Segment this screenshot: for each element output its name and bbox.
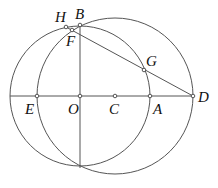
point-E [35, 94, 39, 98]
label-A: A [152, 101, 163, 117]
label-C: C [109, 101, 120, 117]
point-A [148, 94, 152, 98]
label-H: H [54, 9, 67, 25]
point-B [78, 23, 82, 27]
line-DH [66, 27, 193, 96]
point-C [113, 94, 117, 98]
label-G: G [146, 53, 157, 69]
point-H [64, 25, 68, 29]
label-E: E [24, 101, 34, 117]
geometry-diagram: HBFGEOCAD [0, 0, 218, 188]
label-B: B [75, 6, 84, 22]
point-O [78, 94, 82, 98]
label-O: O [68, 101, 79, 117]
label-D: D [197, 89, 209, 105]
point-F [70, 28, 74, 32]
label-F: F [65, 33, 76, 49]
point-D [191, 94, 195, 98]
